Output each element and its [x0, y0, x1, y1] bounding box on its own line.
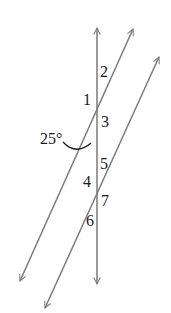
angle-label-5: 5: [100, 156, 108, 172]
angle-label-4: 4: [83, 174, 91, 190]
angle-arc-25: [63, 142, 91, 149]
angle-label-2: 2: [100, 64, 108, 80]
parallel-line-1: [20, 29, 133, 281]
parallel-lines-diagram: 2 1 3 25° 5 4 7 6: [0, 0, 171, 313]
angle-label-3: 3: [101, 114, 109, 130]
diagram-lines: [0, 0, 171, 313]
angle-label-6: 6: [86, 213, 94, 229]
parallel-line-2: [45, 57, 159, 308]
angle-label-7: 7: [101, 193, 109, 209]
angle-label-1: 1: [83, 92, 91, 108]
angle-label-25-degrees: 25°: [40, 131, 62, 147]
